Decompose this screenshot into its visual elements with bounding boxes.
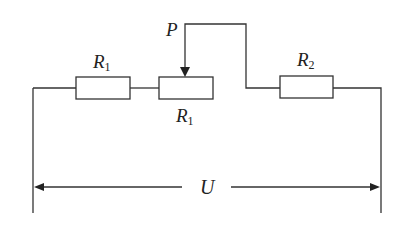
right-terminal-wire (333, 88, 381, 213)
slider-arrow-icon (180, 67, 190, 77)
rheostat-r1 (159, 77, 213, 99)
resistor-r2 (280, 76, 333, 98)
r1-fixed-label: R1 (92, 51, 111, 74)
circuit-diagram: P R1 R1 R2 U (0, 0, 402, 229)
r1-rheostat-label: R1 (175, 105, 194, 128)
arrow-right-icon (370, 183, 380, 191)
slider-label: P (165, 19, 178, 40)
voltage-label: U (200, 176, 216, 198)
resistor-r1-fixed (76, 77, 130, 99)
slider-wire (185, 24, 280, 88)
arrow-left-icon (34, 183, 44, 191)
r2-label: R2 (296, 49, 315, 72)
